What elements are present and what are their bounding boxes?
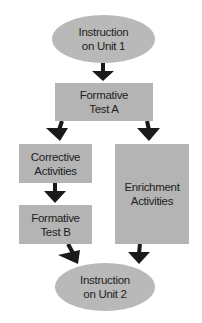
node-instruction-unit-1: Instruction on Unit 1 (52, 15, 155, 63)
node-label: Instruction on Unit 2 (80, 273, 130, 301)
node-label: Corrective Activities (31, 150, 80, 178)
node-instruction-unit-2: Instruction on Unit 2 (55, 263, 155, 311)
node-formative-test-b: Formative Test B (19, 205, 92, 244)
node-label: Formative Test A (80, 88, 128, 116)
node-enrichment-activities: Enrichment Activities (115, 144, 189, 244)
node-label: Formative Test B (31, 211, 79, 239)
node-corrective-activities: Corrective Activities (19, 144, 92, 183)
node-formative-test-a: Formative Test A (55, 83, 153, 121)
node-label: Enrichment Activities (124, 180, 179, 208)
node-label: Instruction on Unit 1 (79, 25, 129, 53)
